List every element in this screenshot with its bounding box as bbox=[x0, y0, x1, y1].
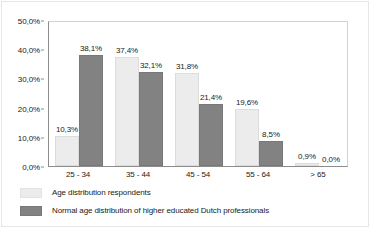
bar-value-label: 21,4% bbox=[193, 93, 229, 102]
y-axis-labels: 0,0%10,0%20,0%30,0%40,0%50,0% bbox=[0, 21, 44, 167]
y-axis-tick-label: 10,0% bbox=[18, 133, 40, 142]
y-axis-tick-label: 0,0% bbox=[22, 163, 40, 172]
bar bbox=[115, 57, 139, 166]
legend-item-normal-distribution: Normal age distribution of higher educat… bbox=[20, 203, 360, 218]
y-axis-tick-mark bbox=[41, 167, 44, 168]
y-axis-tick-mark bbox=[41, 50, 44, 51]
x-axis-labels: 25 - 3435 - 4445 - 5455 - 64> 65 bbox=[48, 170, 348, 184]
y-axis-tick-mark bbox=[41, 108, 44, 109]
bar-value-label: 31,8% bbox=[169, 62, 205, 71]
legend-label-normal-distribution: Normal age distribution of higher educat… bbox=[52, 206, 269, 215]
bar bbox=[55, 136, 79, 166]
y-axis-tick-mark bbox=[41, 79, 44, 80]
y-axis-tick-label: 50,0% bbox=[18, 17, 40, 26]
bar-value-label: 19,6% bbox=[229, 98, 265, 107]
x-axis-tick-label: 55 - 64 bbox=[228, 170, 288, 179]
x-axis-tick-label: > 65 bbox=[288, 170, 348, 179]
bar-chart: 0,0%10,0%20,0%30,0%40,0%50,0% 10,3%38,1%… bbox=[0, 0, 371, 229]
y-axis-tick-mark bbox=[41, 21, 44, 22]
bar-value-label: 38,1% bbox=[73, 44, 109, 53]
legend-swatch-light bbox=[20, 188, 42, 198]
legend-label-respondents: Age distribution respondents bbox=[52, 188, 151, 197]
bar-value-label: 0,0% bbox=[313, 155, 349, 164]
chart-legend: Age distribution respondents Normal age … bbox=[20, 185, 360, 221]
bar-value-label: 37,4% bbox=[109, 46, 145, 55]
bar bbox=[199, 104, 223, 166]
bar-value-label: 8,5% bbox=[253, 130, 289, 139]
x-axis-tick-label: 35 - 44 bbox=[108, 170, 168, 179]
x-axis-tick-label: 45 - 54 bbox=[168, 170, 228, 179]
x-axis-tick-label: 25 - 34 bbox=[48, 170, 108, 179]
legend-item-respondents: Age distribution respondents bbox=[20, 185, 360, 200]
bar-value-label: 32,1% bbox=[133, 61, 169, 70]
y-axis-tick-label: 40,0% bbox=[18, 46, 40, 55]
bar bbox=[259, 141, 283, 166]
y-axis-tick-mark bbox=[41, 137, 44, 138]
legend-swatch-dark bbox=[20, 206, 42, 216]
bar bbox=[79, 55, 103, 166]
y-axis-tick-label: 30,0% bbox=[18, 75, 40, 84]
bars-container: 10,3%38,1%37,4%32,1%31,8%21,4%19,6%8,5%0… bbox=[49, 22, 347, 166]
bar bbox=[139, 72, 163, 166]
bar bbox=[175, 73, 199, 166]
plot-area: 10,3%38,1%37,4%32,1%31,8%21,4%19,6%8,5%0… bbox=[48, 21, 348, 167]
y-axis-tick-label: 20,0% bbox=[18, 104, 40, 113]
